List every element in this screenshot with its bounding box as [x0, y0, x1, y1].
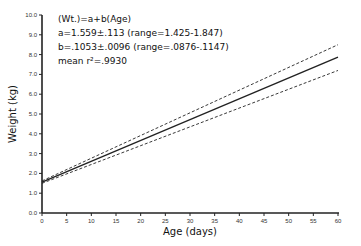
- x-axis-label: Age (days): [163, 226, 217, 237]
- x-tick-label: 40: [236, 218, 243, 224]
- y-tick-label: 1.0: [29, 190, 38, 196]
- x-tick-label: 50: [285, 218, 292, 224]
- y-tick-label: 0.0: [29, 210, 38, 216]
- y-tick-label: 2.0: [29, 170, 38, 176]
- x-tick-label: 35: [211, 218, 218, 224]
- confidence-bound-line: [42, 70, 338, 183]
- x-tick-label: 45: [261, 218, 268, 224]
- y-tick-label: 3.0: [29, 151, 38, 157]
- y-tick-label: 4.0: [29, 131, 38, 137]
- x-tick-label: 25: [162, 218, 169, 224]
- y-tick-label: 5.0: [29, 111, 38, 117]
- y-tick-label: 10.0: [25, 12, 37, 18]
- y-tick-label: 8.0: [29, 52, 38, 58]
- x-tick-label: 15: [113, 218, 120, 224]
- weight-age-chart: 0.01.02.03.04.05.06.07.08.09.010.0 05101…: [0, 0, 361, 246]
- y-tick-label: 9.0: [29, 32, 38, 38]
- x-tick-label: 0: [40, 218, 44, 224]
- annotation-r2: mean r²=.9930: [58, 56, 127, 66]
- y-tick-label: 6.0: [29, 91, 38, 97]
- annotation-equation: (Wt.)=a+b(Age): [58, 14, 131, 24]
- x-tick-label: 55: [310, 218, 317, 224]
- annotation-b: b=.1053±.0096 (range=.0876-.1147): [58, 42, 229, 52]
- y-tick-label: 7.0: [29, 71, 38, 77]
- x-tick-label: 30: [187, 218, 194, 224]
- annotation-a: a=1.559±.113 (range=1.425-1.847): [58, 28, 223, 38]
- mean-regression-line: [42, 57, 338, 182]
- x-tick-label: 5: [65, 218, 69, 224]
- x-axis-ticks: 051015202530354045505560: [40, 213, 342, 224]
- y-axis-label: Weight (kg): [7, 85, 18, 143]
- x-tick-label: 10: [88, 218, 95, 224]
- y-axis-ticks: 0.01.02.03.04.05.06.07.08.09.010.0: [25, 12, 42, 216]
- x-tick-label: 20: [137, 218, 144, 224]
- x-tick-label: 60: [335, 218, 342, 224]
